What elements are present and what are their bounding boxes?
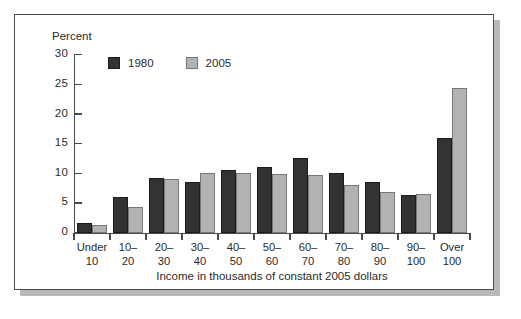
y-tick-label-20: 20: [34, 107, 68, 119]
bar-2005-6: [308, 175, 323, 232]
x-tick-4: [217, 233, 218, 240]
x-axis-title: Income in thousands of constant 2005 dol…: [74, 270, 470, 282]
legend-swatch-1980: [108, 57, 120, 69]
x-tick-3: [181, 233, 182, 240]
bar-2005-8: [380, 192, 395, 232]
bar-2005-1: [128, 207, 143, 232]
y-tick-5: [74, 202, 82, 203]
y-tick-label-0: 0: [34, 225, 68, 237]
x-tick-5: [253, 233, 254, 240]
y-tick-label-10: 10: [34, 166, 68, 178]
y-tick-label-25: 25: [34, 77, 68, 89]
y-tick-20: [74, 113, 82, 114]
bar-1980-1: [113, 197, 128, 233]
bar-2005-3: [200, 173, 215, 233]
x-tick-6: [289, 233, 290, 240]
bar-1980-4: [221, 170, 236, 233]
y-tick-10: [74, 173, 82, 174]
category-label-10: Over 100: [431, 241, 473, 268]
bar-1980-8: [365, 182, 380, 233]
x-tick-1: [109, 233, 110, 240]
x-tick-0: [73, 233, 74, 240]
bar-2005-2: [164, 179, 179, 233]
x-tick-11: [469, 233, 470, 240]
x-tick-2: [145, 233, 146, 240]
legend-swatch-2005: [186, 57, 198, 69]
x-tick-10: [433, 233, 434, 240]
chart-legend: 1980 2005: [108, 57, 231, 69]
y-tick-15: [74, 143, 82, 144]
y-tick-30: [74, 54, 82, 55]
bar-1980-2: [149, 178, 164, 233]
x-tick-7: [325, 233, 326, 240]
legend-item-2005: 2005: [186, 57, 232, 69]
bar-chart-plot-area: Percent 051015202530 Under 1010– 2020– 3…: [0, 0, 521, 319]
y-tick-label-15: 15: [34, 136, 68, 148]
legend-label-1980: 1980: [128, 57, 154, 69]
y-tick-25: [74, 84, 82, 85]
x-tick-9: [397, 233, 398, 240]
bar-1980-9: [401, 195, 416, 232]
bar-2005-0: [92, 225, 107, 233]
y-tick-label-30: 30: [34, 47, 68, 59]
bar-1980-0: [77, 223, 92, 233]
bar-2005-5: [272, 174, 287, 233]
x-axis-line: [74, 233, 470, 234]
bar-1980-7: [329, 173, 344, 232]
bar-2005-10: [452, 88, 467, 233]
x-tick-8: [361, 233, 362, 240]
bar-1980-3: [185, 182, 200, 233]
y-axis-title: Percent: [52, 30, 92, 42]
bar-1980-10: [437, 138, 452, 233]
bar-2005-4: [236, 173, 251, 233]
y-tick-label-5: 5: [34, 195, 68, 207]
legend-item-1980: 1980: [108, 57, 154, 69]
legend-label-2005: 2005: [206, 57, 232, 69]
chart-screenshot: Percent 051015202530 Under 1010– 2020– 3…: [0, 0, 521, 319]
bar-1980-6: [293, 158, 308, 233]
bar-2005-7: [344, 185, 359, 233]
bar-2005-9: [416, 194, 431, 233]
bar-1980-5: [257, 167, 272, 232]
